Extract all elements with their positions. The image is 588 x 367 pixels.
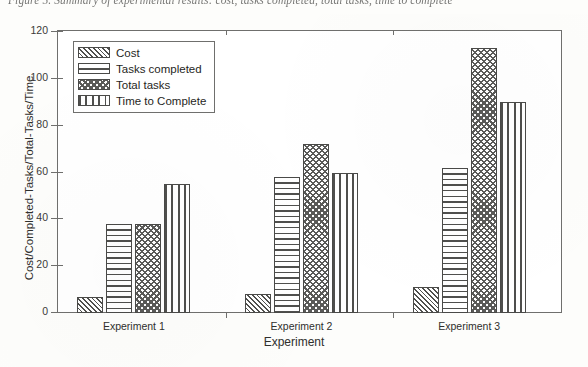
x-axis-tick	[226, 313, 227, 318]
bar-tasks-completed-group-2	[274, 177, 300, 313]
legend-item-total-tasks: Total tasks	[78, 77, 210, 92]
legend-item-cost: Cost	[78, 45, 210, 60]
bar-tasks-completed-group-3	[442, 168, 468, 313]
legend-label: Cost	[116, 47, 140, 59]
legend-label: Total tasks	[116, 79, 170, 91]
bar-time-to-complete-group-2	[332, 173, 358, 314]
y-axis-tick	[51, 125, 58, 126]
y-axis-tick	[51, 312, 58, 313]
y-axis-tick	[51, 31, 58, 32]
legend-item-tasks-completed: Tasks completed	[78, 61, 210, 76]
bar-total-tasks-group-2	[303, 144, 329, 313]
x-axis-category-label-3: Experiment 3	[409, 320, 529, 332]
figure-caption: Figure 5. Summary of experimental result…	[8, 0, 586, 10]
legend-item-time-to-complete: Time to Complete	[78, 93, 210, 108]
y-axis-tick	[51, 172, 58, 173]
y-axis-tick	[51, 218, 58, 219]
x-axis-tick	[393, 313, 394, 318]
legend-label: Time to Complete	[116, 95, 206, 107]
x-axis-title: Experiment	[0, 335, 588, 349]
bar-total-tasks-group-3	[471, 48, 497, 313]
bar-time-to-complete-group-3	[500, 102, 526, 313]
bar-tasks-completed-group-1	[106, 224, 132, 313]
bar-time-to-complete-group-1	[164, 184, 190, 313]
legend-label: Tasks completed	[116, 63, 202, 75]
legend-swatch-horizontal-lines-icon	[78, 63, 110, 74]
y-axis-tick-label: 120	[8, 24, 48, 36]
y-axis-title: Cost/Completed-Tasks/Total-Tasks/Time	[23, 48, 35, 308]
legend-swatch-diagonal-hatch-icon	[78, 47, 110, 58]
legend-swatch-square-dots-icon	[78, 95, 110, 106]
chart-legend: CostTasks completedTotal tasksTime to Co…	[73, 41, 215, 113]
bar-total-tasks-group-1	[135, 224, 161, 313]
figure-page: Figure 5. Summary of experimental result…	[0, 0, 588, 367]
bar-cost-group-2	[245, 294, 271, 313]
y-axis-tick	[51, 265, 58, 266]
y-axis-tick	[51, 78, 58, 79]
bar-cost-group-1	[77, 297, 103, 313]
x-axis-category-label-1: Experiment 1	[74, 320, 194, 332]
bar-cost-group-3	[413, 287, 439, 313]
legend-swatch-cross-hatch-icon	[78, 79, 110, 90]
x-axis-category-label-2: Experiment 2	[242, 320, 362, 332]
bar-chart-figure: 020406080100120 Experiment 1Experiment 2…	[0, 14, 588, 367]
